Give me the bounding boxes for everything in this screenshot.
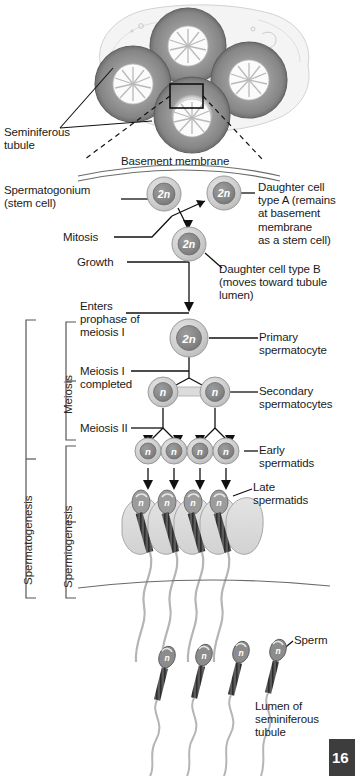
ploidy-sperm-2: n xyxy=(201,651,206,661)
interstitial-tissue xyxy=(100,5,310,132)
label-daughter-cell-type-b: Daughter cell type B (moves toward tubul… xyxy=(219,263,327,303)
seminiferous-tubule-cross-sections xyxy=(95,8,287,153)
cell-daughter-type-b xyxy=(172,227,206,261)
ploidy-secondary-right: n xyxy=(212,386,218,398)
ploidy-early-3: n xyxy=(197,446,203,457)
label-primary-spermatocyte: Primary spermatocyte xyxy=(259,331,327,357)
ploidy-early-2: n xyxy=(171,446,177,457)
ploidy-late-2: n xyxy=(164,498,170,508)
ploidy-daughter-a: 2n xyxy=(217,187,230,199)
label-meiosis-ii: Meiosis II xyxy=(80,422,128,435)
ploidy-late-4: n xyxy=(216,498,222,508)
bracket-label-meiosis: Meiosis xyxy=(62,375,74,414)
cells-late-spermatids xyxy=(132,490,229,662)
label-meiosis-i-completed: Meiosis I completed xyxy=(80,365,132,391)
zoom-highlight-box xyxy=(170,84,203,108)
label-growth: Growth xyxy=(77,256,113,269)
ploidy-early-4: n xyxy=(223,446,229,457)
ploidy-late-3: n xyxy=(190,498,196,508)
label-sperm: Sperm xyxy=(294,634,327,647)
lineage-arrowheads xyxy=(143,200,235,490)
label-seminiferous-tubule: Seminiferous tubule xyxy=(4,126,70,152)
cell-spermatogonium-stem xyxy=(147,177,181,211)
ploidy-sperm-3: n xyxy=(238,648,243,658)
figure-canvas: 2n 2n 2n 2n n n n n n n n n n n n n n n … xyxy=(0,0,355,776)
label-early-spermatids: Early spermatids xyxy=(259,444,314,470)
ploidy-early-1: n xyxy=(145,446,151,457)
ploidy-daughter-b: 2n xyxy=(182,238,195,250)
label-spermatogonium: Spermatogonium (stem cell) xyxy=(4,184,90,210)
label-mitosis: Mitosis xyxy=(63,231,98,244)
bracket-label-spermiogenesis: Spermiogenesis xyxy=(62,506,74,588)
bracket-label-spermatogenesis: Spermatogenesis xyxy=(22,496,34,586)
zoom-expansion-dashed-lines xyxy=(85,96,262,159)
label-enters-prophase: Enters prophase of meiosis I xyxy=(80,300,140,340)
tubule-top xyxy=(150,8,226,84)
cell-primary-spermatocyte xyxy=(170,319,208,357)
tubule-right xyxy=(211,42,287,118)
leader-lines-top xyxy=(60,68,152,128)
label-basement-membrane: Basement membrane xyxy=(121,155,229,168)
ploidy-spermatogonium: 2n xyxy=(157,188,170,200)
label-secondary-spermatocytes: Secondary spermatocytes xyxy=(259,385,332,411)
lineage-connectors xyxy=(114,193,293,651)
ploidy-late-1: n xyxy=(138,498,144,508)
page-number-badge: 16 xyxy=(329,739,355,776)
label-lumen: Lumen of seminiferous tubule xyxy=(255,700,319,740)
ploidy-secondary-left: n xyxy=(160,386,166,398)
tubule-bottom-boxed xyxy=(154,77,230,153)
lumen-boundary-line xyxy=(78,580,330,588)
cells-secondary-spermatocytes xyxy=(148,377,230,407)
ploidy-sperm-1: n xyxy=(164,653,169,663)
tubule-left xyxy=(95,46,171,122)
label-late-spermatids: Late spermatids xyxy=(253,481,308,507)
label-daughter-cell-type-a: Daughter cell type A (remains at basemen… xyxy=(258,181,336,247)
ploidy-sperm-4: n xyxy=(275,646,280,656)
ploidy-primary-spermatocyte: 2n xyxy=(181,333,195,345)
sertoli-cell-cytoplasm xyxy=(122,498,263,555)
ploidy-labels: 2n 2n 2n 2n n n n n n n n n n n n n n n xyxy=(138,187,280,663)
cells-early-spermatids xyxy=(135,438,239,464)
cell-daughter-type-a xyxy=(207,176,241,210)
